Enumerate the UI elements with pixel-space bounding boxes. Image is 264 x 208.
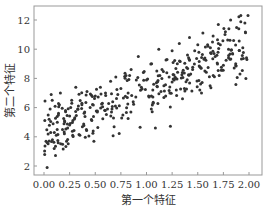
y-axis-label: 第二个特征 [3,63,17,118]
data-point [78,134,81,137]
data-point [198,89,201,92]
data-point [52,141,55,144]
data-point [116,93,119,96]
plot-frame [34,6,262,175]
data-point [211,57,214,60]
data-point [247,14,250,17]
data-point [158,74,161,77]
data-point [236,76,239,79]
data-point [118,104,121,107]
data-point [233,67,236,70]
data-point [221,68,224,71]
x-tick-label: 0.25 [58,179,80,190]
data-point [173,78,176,81]
data-point [145,78,148,81]
data-point [115,97,118,100]
data-point [230,49,233,52]
data-point [139,126,142,129]
data-point [138,84,141,87]
data-point [85,94,88,97]
data-point [196,85,199,88]
data-point [126,103,129,106]
data-point [83,111,86,114]
data-point [127,92,130,95]
data-point [48,124,51,127]
data-point [221,39,224,42]
data-point [201,81,204,84]
data-point [105,113,108,116]
data-point [84,101,87,104]
data-point [103,109,106,112]
data-point [135,78,138,81]
data-point [188,82,191,85]
y-tick-label: 4 [24,131,30,142]
data-point [94,94,97,97]
data-point [207,66,210,69]
data-point [216,63,219,66]
data-point [197,79,200,82]
data-point [124,77,127,80]
x-tick-label: 2.00 [238,179,260,190]
data-point [181,97,184,100]
data-point [217,47,220,50]
data-point [195,57,198,60]
data-point [154,126,157,129]
data-point [212,74,215,77]
y-tick-label: 12 [17,15,30,26]
data-point [101,117,104,120]
data-point [78,93,81,96]
data-point [70,102,73,105]
data-point [79,99,82,102]
data-point [49,108,52,111]
data-point [169,125,172,128]
x-tick-label: 1.25 [161,179,183,190]
data-point [134,96,137,99]
data-point [217,23,220,26]
x-tick-label: 1.75 [212,179,234,190]
data-point [106,108,109,111]
data-point [53,131,56,134]
data-point [244,77,247,80]
data-point [44,100,47,103]
data-point [200,56,203,59]
data-point [92,115,95,118]
data-point [87,135,90,138]
data-point [114,75,117,78]
data-point [209,84,212,87]
data-point [239,14,242,17]
data-point [201,53,204,56]
data-point [176,71,179,74]
data-point [127,117,130,120]
data-point [211,40,214,43]
data-point [84,115,87,118]
data-point [201,32,204,35]
data-point [115,88,118,91]
data-point [101,102,104,105]
data-point [160,90,163,93]
data-point [156,85,159,88]
data-point [150,62,153,65]
data-point [66,114,69,117]
data-point [183,87,186,90]
data-point [245,58,248,61]
data-point [171,49,174,52]
data-point [110,110,113,113]
data-point [48,118,51,121]
data-point [151,110,154,113]
data-point [168,85,171,88]
data-point [80,107,83,110]
data-point [188,59,191,62]
data-point [89,106,92,109]
data-point [200,91,203,94]
data-point [44,145,47,148]
data-point [126,96,129,99]
data-point [47,132,50,135]
x-tick-label: 1.00 [135,179,157,190]
data-point [219,43,222,46]
data-point [51,99,54,102]
data-point [129,111,132,114]
data-point [67,142,70,145]
x-tick-label: 1.50 [187,179,209,190]
data-point [65,140,68,143]
data-point [50,93,53,96]
